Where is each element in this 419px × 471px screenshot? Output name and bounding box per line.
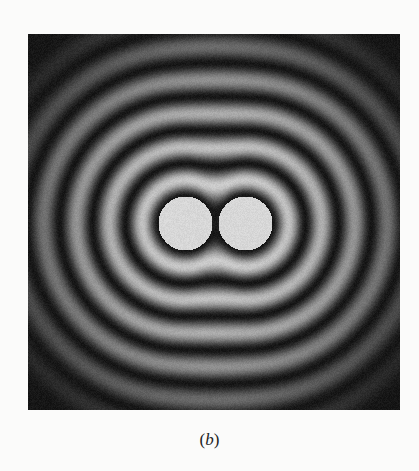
interference-pattern-image bbox=[28, 34, 400, 410]
figure-caption: (b) bbox=[0, 430, 419, 450]
figure-panel-b bbox=[28, 34, 400, 410]
caption-label: b bbox=[205, 430, 214, 449]
caption-close-paren: ) bbox=[214, 430, 220, 449]
